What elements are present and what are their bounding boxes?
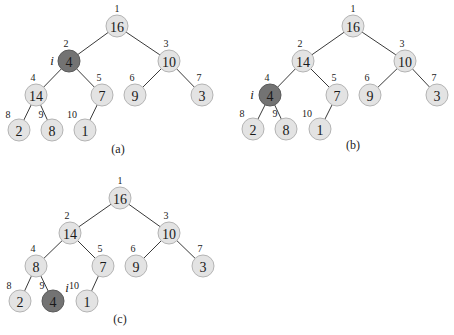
node-index: 5 — [332, 72, 337, 83]
node-index: 3 — [400, 38, 405, 49]
node-value: 1 — [317, 123, 324, 138]
heap-node: 161 — [109, 175, 131, 209]
node-value: 14 — [296, 55, 310, 70]
heap-node: 84 — [25, 243, 47, 277]
node-index: 4 — [31, 243, 36, 254]
heap-node: 161 — [342, 3, 364, 37]
tree-edge — [177, 241, 195, 259]
node-index: 2 — [65, 210, 70, 221]
node-index: 1 — [115, 3, 120, 14]
node-value: 2 — [17, 295, 24, 310]
node-value: 7 — [334, 89, 341, 104]
node-index: 1 — [118, 175, 123, 186]
node-value: 4 — [267, 89, 274, 104]
node-value: 9 — [132, 89, 139, 104]
node-value: 4 — [50, 295, 57, 310]
tree-edge — [378, 69, 397, 88]
node-index: 6 — [365, 72, 370, 83]
node-index: 3 — [164, 38, 169, 49]
tree-edge — [143, 69, 161, 87]
tree-edge — [90, 105, 97, 120]
tree-edge — [92, 276, 99, 291]
heap-tree-2: 161142103447596372889110i(b) — [240, 3, 449, 152]
heap-node: 142 — [292, 38, 314, 72]
node-index: 10 — [302, 108, 312, 119]
tree-edge — [78, 241, 95, 258]
node-value: 10 — [398, 55, 412, 70]
node-index: 9 — [40, 280, 45, 291]
tree-edge — [126, 32, 160, 55]
heap-node: 28 — [240, 108, 265, 140]
tree-edge — [278, 69, 296, 87]
heap-tree-1: 161421031447596372889110i(a) — [6, 3, 214, 156]
heap-node: 161 — [106, 3, 128, 37]
heap-node: 42 — [58, 38, 80, 72]
heap-node: 144 — [25, 72, 47, 106]
node-value: 14 — [29, 89, 43, 104]
tree-edge — [258, 105, 265, 119]
node-value: 9 — [367, 89, 374, 104]
node-index: 10 — [69, 280, 79, 291]
heap-node: 110 — [69, 280, 98, 312]
tree-edge — [325, 105, 332, 119]
node-index: 3 — [164, 210, 169, 221]
heap-node: 75 — [326, 72, 348, 106]
tree-edge — [144, 241, 161, 258]
node-value: 2 — [250, 123, 257, 138]
heap-node: 37 — [192, 243, 214, 277]
heap-node: 103 — [394, 38, 416, 72]
node-value: 1 — [84, 295, 91, 310]
node-index: 2 — [64, 38, 69, 49]
node-value: 3 — [434, 89, 441, 104]
node-index: 7 — [198, 243, 203, 254]
tree-edge — [129, 204, 160, 226]
heap-node: 110 — [302, 108, 331, 140]
heap-node: 96 — [359, 72, 381, 106]
tree-caption: (c) — [113, 312, 126, 326]
node-index: 5 — [98, 243, 103, 254]
heap-node: 103 — [158, 210, 180, 244]
node-value: 3 — [200, 260, 207, 275]
node-index: 6 — [131, 243, 136, 254]
heap-node: 96 — [125, 243, 147, 277]
tree-caption: (b) — [346, 138, 360, 152]
pointer-i-label: i — [250, 87, 254, 102]
node-value: 1 — [82, 124, 89, 139]
heap-node: 75 — [92, 243, 114, 277]
heap-node: 103 — [158, 38, 180, 72]
heap-node: 37 — [426, 72, 448, 106]
node-index: 8 — [6, 109, 11, 120]
node-index: 1 — [351, 3, 356, 14]
node-value: 10 — [162, 227, 176, 242]
heap-tree-3: 161142103847596372849110i(c) — [7, 175, 215, 326]
node-value: 9 — [133, 260, 140, 275]
tree-edge — [24, 105, 31, 120]
node-index: 8 — [7, 280, 12, 291]
node-value: 4 — [66, 55, 73, 70]
node-value: 16 — [346, 20, 360, 35]
node-value: 7 — [100, 260, 107, 275]
node-value: 8 — [33, 260, 40, 275]
heap-node: 89 — [273, 108, 298, 140]
tree-edge — [177, 69, 195, 87]
node-value: 2 — [16, 124, 23, 139]
tree-edge — [362, 32, 396, 55]
node-index: 9 — [39, 109, 44, 120]
heap-diagram: 161421031447596372889110i(a)161142103447… — [0, 0, 454, 335]
tree-edge — [77, 69, 95, 87]
tree-edge — [25, 276, 32, 291]
heap-node: 44 — [259, 72, 281, 106]
node-index: 10 — [67, 109, 77, 120]
tree-caption: (a) — [111, 142, 124, 156]
heap-node: 96 — [124, 72, 146, 106]
heap-node: 110 — [67, 109, 96, 141]
tree-edge — [44, 69, 62, 87]
node-value: 8 — [283, 123, 290, 138]
node-value: 7 — [99, 89, 106, 104]
node-index: 4 — [265, 72, 270, 83]
node-value: 14 — [63, 227, 77, 242]
node-index: 7 — [197, 72, 202, 83]
tree-edge — [78, 32, 108, 54]
node-value: 16 — [110, 20, 124, 35]
tree-edge — [44, 241, 62, 259]
